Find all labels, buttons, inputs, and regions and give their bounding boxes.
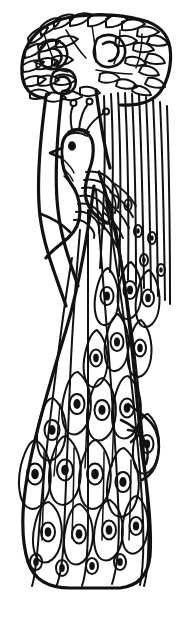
peacock-line-art: [0, 0, 178, 621]
artwork-canvas: [0, 0, 178, 621]
